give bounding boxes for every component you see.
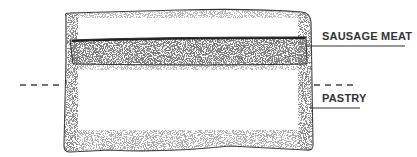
- pastry-label: PASTRY: [322, 92, 367, 104]
- sausage-meat-strip: [70, 37, 307, 65]
- sausage-meat-label: SAUSAGE MEAT: [322, 30, 412, 42]
- pastry-sheet: [64, 9, 314, 155]
- diagram-canvas: [0, 0, 417, 157]
- sausage-meat-fill: [70, 37, 307, 65]
